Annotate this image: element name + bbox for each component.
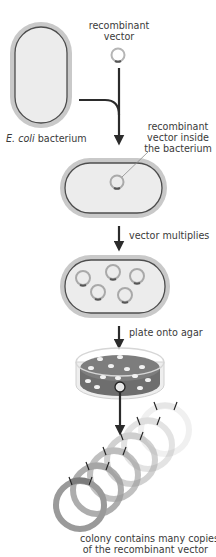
diagram-graphics (0, 0, 216, 557)
ecoli-species: E. coli (6, 133, 35, 144)
label-line: colony contains many copies (80, 533, 208, 544)
step-multiplies-label: vector multiplies (129, 230, 209, 241)
merge-arrow-icon (79, 68, 119, 140)
label-line: of the recombinant vector (80, 544, 208, 555)
colony-caption: colony contains many copies of the recom… (80, 533, 208, 555)
plasmid-copies-icon (56, 402, 189, 529)
vector-inside-label: recombinant vector inside the bacterium (143, 121, 213, 154)
recombinant-vector-icon (112, 49, 125, 62)
label-line: the bacterium (143, 143, 213, 154)
ecoli-label: E. coli bacterium (6, 133, 87, 144)
label-line: recombinant (88, 20, 150, 31)
ecoli-bacterium-icon (10, 22, 72, 128)
label-line: recombinant (143, 121, 213, 132)
step-plate-label: plate onto agar (129, 327, 203, 338)
label-line: vector inside (143, 132, 213, 143)
ecoli-suffix: bacterium (35, 133, 87, 144)
cloning-diagram: recombinant vector E. coli bacterium rec… (0, 0, 216, 557)
bacterium-with-vector-icon (60, 152, 167, 218)
bacterium-multiple-vectors-icon (60, 255, 170, 318)
petri-dish-icon (76, 348, 164, 399)
recombinant-vector-label: recombinant vector (88, 20, 150, 42)
label-line: vector (88, 31, 150, 42)
highlighted-colony (115, 382, 125, 392)
